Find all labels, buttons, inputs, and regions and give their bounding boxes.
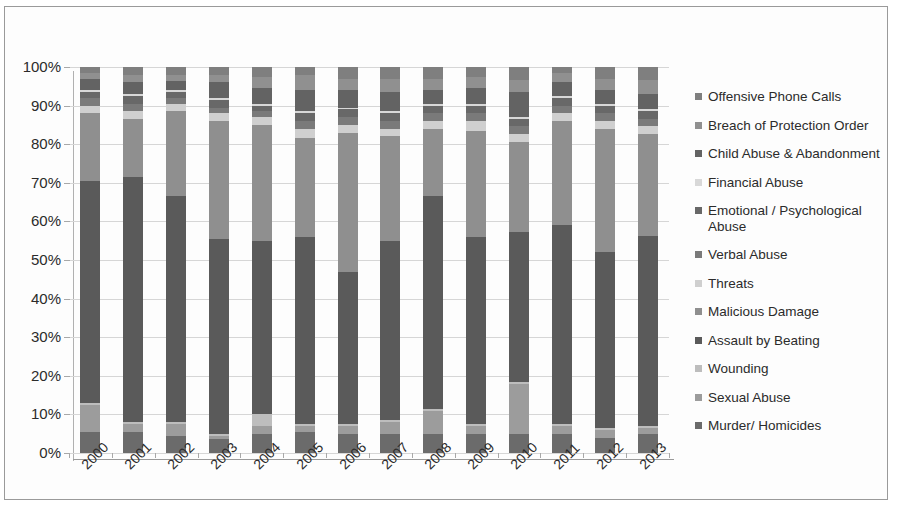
stacked-bar[interactable] <box>252 67 272 453</box>
bar-segment[interactable] <box>595 106 615 114</box>
bar-segment[interactable] <box>338 90 358 107</box>
bar-segment[interactable] <box>380 129 400 137</box>
bar-segment[interactable] <box>380 67 400 79</box>
bar-segment[interactable] <box>123 67 143 75</box>
bar-segment[interactable] <box>552 106 572 114</box>
bar-segment[interactable] <box>552 225 572 424</box>
stacked-bar[interactable] <box>380 67 400 453</box>
bar-segment[interactable] <box>595 79 615 91</box>
bar-segment[interactable] <box>423 90 443 104</box>
bar-segment[interactable] <box>380 422 400 434</box>
bar-segment[interactable] <box>509 92 529 117</box>
bar-segment[interactable] <box>509 119 529 127</box>
bar-segment[interactable] <box>509 384 529 434</box>
bar-segment[interactable] <box>638 80 658 93</box>
bar-segment[interactable] <box>123 424 143 432</box>
bar-segment[interactable] <box>123 96 143 104</box>
bar-segment[interactable] <box>123 111 143 119</box>
bar-segment[interactable] <box>595 90 615 104</box>
bar-segment[interactable] <box>166 104 186 112</box>
bar-segment[interactable] <box>338 109 358 117</box>
bar-segment[interactable] <box>423 129 443 197</box>
stacked-bar[interactable] <box>423 67 443 453</box>
bar-segment[interactable] <box>466 237 486 424</box>
bar-segment[interactable] <box>295 121 315 129</box>
legend-item[interactable]: Child Abuse & Abandonment <box>695 146 891 162</box>
bar-segment[interactable] <box>295 75 315 90</box>
bar-segment[interactable] <box>638 134 658 236</box>
bar-segment[interactable] <box>295 113 315 121</box>
bar-segment[interactable] <box>466 426 486 434</box>
stacked-bar[interactable] <box>80 67 100 453</box>
stacked-bar[interactable] <box>509 67 529 453</box>
bar-segment[interactable] <box>423 411 443 434</box>
bar-segment[interactable] <box>295 237 315 424</box>
bar-segment[interactable] <box>252 241 272 415</box>
legend-item[interactable]: Assault by Beating <box>695 333 891 349</box>
legend-item[interactable]: Malicious Damage <box>695 304 891 320</box>
legend-item[interactable]: Offensive Phone Calls <box>695 89 891 105</box>
bar-segment[interactable] <box>338 426 358 434</box>
bar-segment[interactable] <box>466 88 486 103</box>
bar-segment[interactable] <box>209 75 229 83</box>
bar-segment[interactable] <box>638 111 658 119</box>
stacked-bar[interactable] <box>552 67 572 453</box>
bar-segment[interactable] <box>552 121 572 225</box>
bar-segment[interactable] <box>166 81 186 91</box>
bar-segment[interactable] <box>638 67 658 80</box>
stacked-bar[interactable] <box>638 67 658 453</box>
legend-item[interactable]: Murder/ Homicides <box>695 418 891 434</box>
legend-item[interactable]: Emotional / Psychological Abuse <box>695 203 891 234</box>
bar-segment[interactable] <box>509 142 529 232</box>
bar-segment[interactable] <box>380 136 400 240</box>
bar-segment[interactable] <box>423 196 443 408</box>
bar-segment[interactable] <box>166 196 186 422</box>
bar-segment[interactable] <box>638 119 658 127</box>
bar-segment[interactable] <box>509 67 529 80</box>
bar-segment[interactable] <box>123 75 143 83</box>
bar-segment[interactable] <box>595 121 615 129</box>
legend-item[interactable]: Sexual Abuse <box>695 390 891 406</box>
bar-segment[interactable] <box>80 405 100 432</box>
bar-segment[interactable] <box>252 117 272 125</box>
bar-segment[interactable] <box>295 90 315 111</box>
stacked-bar[interactable] <box>166 67 186 453</box>
bar-segment[interactable] <box>295 129 315 139</box>
bar-segment[interactable] <box>595 252 615 428</box>
bar-segment[interactable] <box>338 67 358 79</box>
bar-segment[interactable] <box>423 106 443 114</box>
bar-segment[interactable] <box>252 426 272 434</box>
bar-segment[interactable] <box>595 113 615 121</box>
bar-segment[interactable] <box>466 106 486 114</box>
bar-segment[interactable] <box>466 77 486 89</box>
bar-segment[interactable] <box>552 98 572 106</box>
bar-segment[interactable] <box>123 104 143 112</box>
stacked-bar[interactable] <box>123 67 143 453</box>
bar-segment[interactable] <box>509 232 529 382</box>
bar-segment[interactable] <box>638 94 658 109</box>
bar-segment[interactable] <box>209 121 229 239</box>
bar-segment[interactable] <box>595 67 615 79</box>
bar-segment[interactable] <box>466 131 486 237</box>
bar-segment[interactable] <box>466 67 486 77</box>
bar-segment[interactable] <box>338 79 358 91</box>
bar-segment[interactable] <box>80 106 100 114</box>
bar-segment[interactable] <box>80 181 100 403</box>
bar-segment[interactable] <box>380 79 400 93</box>
bar-segment[interactable] <box>423 113 443 121</box>
bar-segment[interactable] <box>380 92 400 111</box>
bar-segment[interactable] <box>338 133 358 272</box>
stacked-bar[interactable] <box>295 67 315 453</box>
bar-segment[interactable] <box>509 134 529 142</box>
bar-segment[interactable] <box>380 241 400 420</box>
bar-segment[interactable] <box>423 67 443 79</box>
legend-item[interactable]: Threats <box>695 276 891 292</box>
bar-segment[interactable] <box>338 117 358 125</box>
bar-segment[interactable] <box>295 67 315 75</box>
legend-item[interactable]: Breach of Protection Order <box>695 118 891 134</box>
bar-segment[interactable] <box>252 67 272 77</box>
bar-segment[interactable] <box>509 126 529 134</box>
bar-segment[interactable] <box>209 113 229 121</box>
bar-segment[interactable] <box>509 80 529 92</box>
stacked-bar[interactable] <box>466 67 486 453</box>
